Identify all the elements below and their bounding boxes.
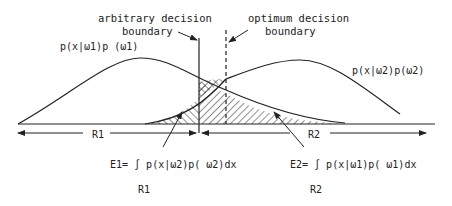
error1-formula: E1= ∫ p(x|ω2)p( ω2)dx	[110, 159, 236, 171]
region1-label: R1	[92, 129, 104, 140]
arbitrary-boundary-label-1: arbitrary decision	[98, 12, 212, 24]
pointer-arbitrary	[178, 32, 197, 40]
error-region-1	[145, 98, 199, 124]
region2-label: R2	[308, 129, 320, 140]
curve2-label: p(x|ω2)p(ω2)	[352, 65, 424, 77]
curve1-label: p(x|ω1)p (ω1)	[60, 41, 138, 53]
optimum-boundary-label-1: optimum decision	[248, 12, 349, 24]
error2-formula: E2= ∫ p(x|ω1)p( ω1)dx	[290, 159, 416, 171]
arbitrary-boundary-label-2: boundary	[122, 25, 173, 37]
error2-subscript: R2	[310, 184, 322, 195]
error1-subscript: R1	[138, 184, 150, 195]
decision-boundary-diagram: arbitrary decision boundary optimum deci…	[0, 0, 452, 206]
pointer-optimum	[229, 30, 248, 42]
optimum-boundary-label-2: boundary	[265, 25, 316, 37]
pointer-error2	[274, 112, 304, 147]
